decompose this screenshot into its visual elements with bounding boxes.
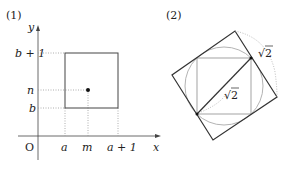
unit-square (65, 53, 118, 108)
y-axis-label: y (27, 21, 35, 34)
diagonal-sqrt2-label: √ 2 (224, 88, 239, 102)
y-tick-b: b (29, 102, 36, 115)
figure-1: (1) y x O b + 1 n b a m a + 1 (6, 9, 161, 160)
figure-2: (2) √ 2 √ 2 (166, 9, 277, 140)
point-top-right (250, 57, 253, 60)
y-tick-b-plus-1: b + 1 (15, 47, 45, 60)
x-tick-a: a (61, 141, 68, 154)
origin-label: O (25, 141, 34, 154)
y-tick-n: n (27, 84, 34, 97)
outer-sqrt2-label: √ 2 (258, 46, 273, 60)
figure-canvas: (1) y x O b + 1 n b a m a + 1 (2) (0, 0, 286, 170)
x-axis-arrow-icon (155, 134, 161, 138)
center-point (86, 88, 90, 92)
figure-2-label: (2) (166, 9, 182, 22)
figure-1-label: (1) (6, 9, 22, 22)
point-bottom-left (196, 113, 199, 116)
x-axis-label: x (153, 141, 160, 154)
x-tick-m: m (82, 141, 92, 154)
y-axis-arrow-icon (36, 25, 40, 31)
svg-text:2: 2 (231, 89, 238, 102)
x-tick-a-plus-1: a + 1 (107, 141, 137, 154)
diagonal (197, 58, 251, 114)
svg-text:2: 2 (265, 47, 272, 60)
guide-lines (38, 53, 118, 136)
